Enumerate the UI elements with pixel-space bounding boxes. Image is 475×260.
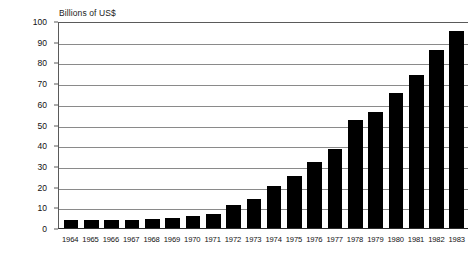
x-tick-label: 1980 bbox=[386, 231, 406, 251]
bar-cell bbox=[284, 23, 304, 228]
bar bbox=[307, 162, 322, 228]
bar bbox=[348, 120, 363, 228]
bar bbox=[429, 50, 444, 228]
bar bbox=[104, 220, 119, 228]
bar bbox=[165, 218, 180, 228]
x-tick-label: 1970 bbox=[182, 231, 202, 251]
y-tick-label: 30 bbox=[38, 162, 47, 172]
y-tick-label: 50 bbox=[38, 121, 47, 131]
bar-cell bbox=[142, 23, 162, 228]
x-tick-label: 1979 bbox=[365, 231, 385, 251]
x-tick-label: 1973 bbox=[243, 231, 263, 251]
x-tick-label: 1977 bbox=[324, 231, 344, 251]
x-tick-label: 1966 bbox=[101, 231, 121, 251]
bar bbox=[226, 205, 241, 228]
x-tick-label: 1971 bbox=[202, 231, 222, 251]
bar-cell bbox=[183, 23, 203, 228]
bar-cell bbox=[345, 23, 365, 228]
y-tick-label: 20 bbox=[38, 183, 47, 193]
x-tick-label: 1978 bbox=[345, 231, 365, 251]
bar bbox=[267, 186, 282, 228]
bar bbox=[247, 199, 262, 228]
bar-cell bbox=[447, 23, 467, 228]
bar-cell bbox=[223, 23, 243, 228]
x-axis-labels: 1964196519661967196819691970197119721973… bbox=[58, 231, 468, 251]
x-tick-label: 1974 bbox=[263, 231, 283, 251]
bar-cell bbox=[244, 23, 264, 228]
bar-cell bbox=[162, 23, 182, 228]
bar-cell bbox=[325, 23, 345, 228]
bar-cell bbox=[305, 23, 325, 228]
x-tick-label: 1975 bbox=[284, 231, 304, 251]
bar bbox=[389, 93, 404, 228]
y-tick-label: 80 bbox=[38, 58, 47, 68]
plot-area bbox=[58, 22, 468, 229]
y-tick-label: 10 bbox=[38, 203, 47, 213]
bar-cell bbox=[386, 23, 406, 228]
bar bbox=[64, 220, 79, 228]
y-tick-label: 60 bbox=[38, 100, 47, 110]
x-tick-label: 1981 bbox=[406, 231, 426, 251]
bar-cell bbox=[406, 23, 426, 228]
x-tick-label: 1965 bbox=[80, 231, 100, 251]
bar bbox=[145, 219, 160, 228]
y-tick-label: 40 bbox=[38, 141, 47, 151]
bar-cell bbox=[102, 23, 122, 228]
bar bbox=[186, 216, 201, 228]
x-tick-label: 1983 bbox=[447, 231, 467, 251]
x-tick-label: 1964 bbox=[60, 231, 80, 251]
bar-cell bbox=[365, 23, 385, 228]
x-tick-label: 1976 bbox=[304, 231, 324, 251]
bar-cell bbox=[426, 23, 446, 228]
bar bbox=[287, 176, 302, 228]
y-tick-label: 100 bbox=[33, 17, 47, 27]
bar bbox=[328, 149, 343, 228]
y-axis-title: Billions of US$ bbox=[59, 8, 116, 18]
bar-cell bbox=[81, 23, 101, 228]
bar-cell bbox=[61, 23, 81, 228]
x-tick-label: 1972 bbox=[223, 231, 243, 251]
bar bbox=[368, 112, 383, 228]
x-tick-label: 1969 bbox=[162, 231, 182, 251]
y-tick-label: 90 bbox=[38, 38, 47, 48]
bar bbox=[206, 214, 221, 228]
bar bbox=[125, 220, 140, 228]
y-axis: 0102030405060708090100 bbox=[0, 0, 58, 260]
bar bbox=[409, 75, 424, 228]
x-tick-label: 1967 bbox=[121, 231, 141, 251]
y-tick-label: 0 bbox=[42, 224, 47, 234]
bar-cell bbox=[264, 23, 284, 228]
bar-cell bbox=[203, 23, 223, 228]
bar bbox=[449, 31, 464, 228]
y-tick-label: 70 bbox=[38, 79, 47, 89]
bar-chart: Billions of US$ 0102030405060708090100 1… bbox=[0, 0, 475, 260]
x-tick-label: 1968 bbox=[141, 231, 161, 251]
bar bbox=[84, 220, 99, 228]
bar-cell bbox=[122, 23, 142, 228]
bar-series bbox=[59, 23, 468, 228]
x-tick-label: 1982 bbox=[426, 231, 446, 251]
